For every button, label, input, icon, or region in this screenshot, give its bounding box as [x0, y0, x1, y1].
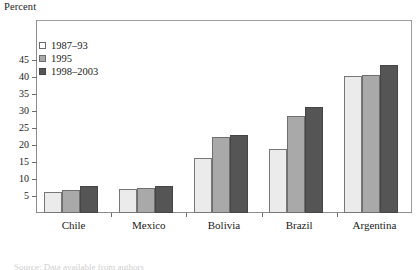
y-axis-tick-label: 25 — [19, 121, 29, 134]
y-axis-tick-label: 45 — [19, 53, 29, 66]
bar — [344, 76, 362, 213]
bar — [137, 188, 155, 213]
bar — [362, 75, 380, 213]
bar — [230, 135, 248, 213]
bar — [269, 149, 287, 213]
y-axis-tick-label: 20 — [19, 138, 29, 151]
source-note: Source: Data available from authors — [14, 262, 144, 270]
y-axis-tick-label: 10 — [19, 172, 29, 185]
y-axis-tick-label: 35 — [19, 87, 29, 100]
x-axis-category-label: Mexico — [111, 219, 186, 231]
y-axis-title: Percent — [4, 1, 36, 12]
legend-swatch-icon — [39, 42, 46, 49]
legend-swatch-icon — [39, 68, 46, 75]
legend-item-label: 1995 — [51, 53, 72, 64]
bar — [155, 186, 173, 213]
bar — [80, 186, 98, 213]
x-axis-tick-mark — [186, 213, 187, 217]
bar — [287, 116, 305, 213]
legend-swatch-icon — [39, 55, 46, 62]
chart-legend: 1987–9319951998–2003 — [39, 40, 98, 79]
bar — [305, 107, 323, 213]
x-axis-category-label: Chile — [36, 219, 111, 231]
legend-item: 1987–93 — [39, 40, 98, 51]
legend-item-label: 1987–93 — [51, 40, 88, 51]
bar — [380, 65, 398, 213]
legend-item-label: 1998–2003 — [51, 66, 98, 77]
x-axis-tick-mark — [111, 213, 112, 217]
bar — [44, 192, 62, 213]
y-axis-tick-label: 40 — [19, 70, 29, 83]
x-axis-category-label: Bolivia — [186, 219, 261, 231]
bar-chart: Percent 51015202530354045 ChileMexicoBol… — [0, 0, 420, 270]
bar — [212, 137, 230, 214]
y-axis-tick-label: 30 — [19, 104, 29, 117]
x-axis-category-label: Argentina — [337, 219, 412, 231]
x-axis-tick-mark — [337, 213, 338, 217]
legend-item: 1998–2003 — [39, 66, 98, 77]
bar — [62, 190, 80, 213]
legend-item: 1995 — [39, 53, 98, 64]
y-axis-tick-label: 15 — [19, 155, 29, 168]
bar — [194, 158, 212, 213]
y-axis-tick-label: 5 — [24, 189, 29, 202]
bar — [119, 189, 137, 213]
x-axis-category-label: Brazil — [262, 219, 337, 231]
x-axis-tick-mark — [262, 213, 263, 217]
